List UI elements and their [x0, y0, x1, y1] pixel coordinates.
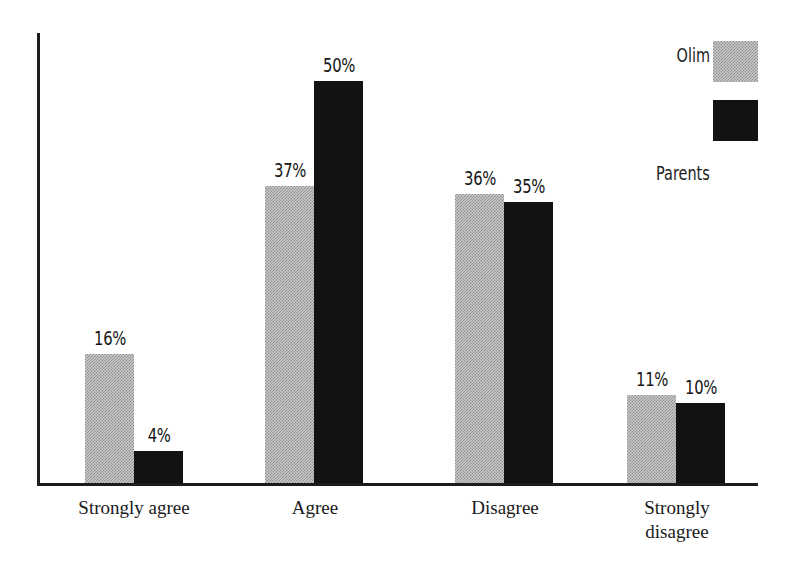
legend-item-parents[interactable]: Parents	[636, 95, 766, 154]
bar-parents-disagree[interactable]: 35%	[504, 202, 553, 483]
legend-item-olim[interactable]: Olim	[636, 36, 766, 95]
bar-group-disagree: 36% 35%	[455, 33, 553, 483]
category-label-line2: disagree	[572, 520, 782, 544]
bar-chart: 16% 4% 37% 50% 36% 35%	[0, 0, 791, 566]
bar-group-strongly-agree: 16% 4%	[85, 33, 183, 483]
bar-value-label: 4%	[147, 424, 170, 446]
category-label-agree: Agree	[210, 496, 420, 520]
bar-olim-agree[interactable]: 37%	[265, 186, 314, 483]
bar-parents-strongly-disagree[interactable]: 10%	[676, 403, 725, 483]
bar-olim-disagree[interactable]: 36%	[455, 194, 504, 483]
bar-value-label: 50%	[323, 54, 355, 76]
legend-label-parents: Parents	[656, 162, 710, 184]
bar-value-label: 35%	[513, 175, 545, 197]
legend-label-olim: Olim	[677, 44, 710, 66]
category-label-line1: Strongly	[572, 496, 782, 520]
bar-value-label: 36%	[464, 167, 496, 189]
bar-olim-strongly-agree[interactable]: 16%	[85, 354, 134, 483]
bar-olim-strongly-disagree[interactable]: 11%	[627, 395, 676, 483]
bar-parents-agree[interactable]: 50%	[314, 81, 363, 483]
legend-swatch-parents	[713, 100, 758, 141]
legend: Olim Parents	[636, 36, 766, 154]
x-axis-line	[37, 483, 758, 486]
bar-value-label: 16%	[94, 327, 126, 349]
bar-value-label: 11%	[636, 368, 668, 390]
bar-group-agree: 37% 50%	[265, 33, 363, 483]
category-label-strongly-disagree: Strongly disagree	[572, 496, 782, 545]
category-label-strongly-agree: Strongly agree	[29, 496, 239, 520]
bar-value-label: 10%	[685, 376, 717, 398]
bar-parents-strongly-agree[interactable]: 4%	[134, 451, 183, 483]
legend-swatch-olim	[713, 41, 758, 82]
bar-value-label: 37%	[274, 159, 306, 181]
